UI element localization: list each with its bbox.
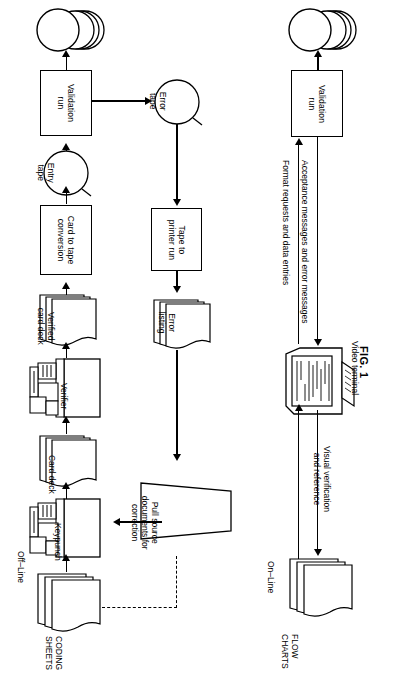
arrowhead-verifier-to-verified-deck [62, 342, 70, 349]
arrowhead-coding-sheets-to-keypunch [62, 554, 70, 561]
node-flow-charts [288, 553, 358, 625]
disk-stack-master-file-online [288, 6, 358, 54]
section-label-off-line: Off–Line [16, 551, 26, 583]
arrowhead-keypunch-to-card-deck [62, 482, 70, 489]
node-error-listing-label: Error listing [157, 312, 177, 334]
node-verified-card-deck-label: Verified card deck [35, 308, 55, 345]
node-card-to-tape-conversion-label: Card to tape conversion [56, 216, 76, 265]
arrowhead-validation-to-master-online [314, 50, 322, 57]
node-validation-run-offline-label: Validation run [56, 84, 76, 122]
node-coding-sheets [36, 568, 106, 638]
arrowhead-flow-charts-to-terminal [295, 404, 303, 411]
edge-pull-source-to-coding-sheets-vertical [176, 556, 177, 608]
edge-label-visual-verification: Visual verification and reference [312, 446, 332, 512]
edge-error-listing-to-pull-source [176, 350, 178, 456]
arrowhead-conversion-to-entry-tape [62, 186, 70, 193]
node-entry-tape-label: Entry tape [36, 163, 56, 183]
arrowhead-verified-deck-to-conversion [62, 282, 70, 289]
arrowhead-error-tape-to-printer-run [173, 199, 181, 206]
node-video-terminal [280, 336, 358, 416]
edge-label-format-requests: Format requests and data entries [281, 160, 291, 285]
node-card-to-tape-conversion: Card to tape conversion [40, 205, 92, 275]
node-error-tape-label: Error tape [147, 92, 167, 111]
node-coding-sheets-label: CODING SHEETS [44, 636, 64, 670]
node-keypunch [26, 497, 102, 559]
edge-validation-to-terminal-online [317, 137, 318, 341]
section-label-on-line: On–Line [266, 561, 276, 593]
node-tape-to-printer-run-label: Tape to printer run [166, 219, 186, 259]
edge-error-tape-to-printer-run [176, 124, 178, 201]
node-validation-run-offline: Validation run [40, 70, 92, 136]
patent-figure-sheet: Off–Line On–Line FIG. 1 Validation run E… [0, 0, 393, 677]
node-verifier-label: Verifier [59, 383, 69, 409]
edge-flow-charts-to-terminal [298, 410, 299, 560]
arrowhead-card-deck-to-verifier [62, 416, 70, 423]
disk-stack-master-file-offline [36, 6, 106, 54]
node-validation-run-online-label: Validation run [307, 84, 327, 122]
edge-validation-to-master-online [317, 56, 319, 70]
edge-pull-source-to-coding-sheets-horizontal [102, 607, 177, 608]
arrowhead-terminal-to-validation-online [295, 138, 303, 145]
arrowhead-validation-to-master-offline [62, 50, 70, 57]
edge-pull-source-to-keypunch [119, 521, 162, 523]
arrowhead-printer-run-to-error-listing [173, 286, 181, 293]
edge-conversion-to-entry-tape [66, 192, 68, 204]
node-validation-run-online: Validation run [291, 70, 343, 137]
node-video-terminal-label: Video terminal [350, 341, 360, 395]
edge-label-acceptance-messages: Acceptance messages and error messages [300, 160, 310, 323]
arrowhead-pull-source-to-keypunch [113, 518, 120, 526]
node-tape-to-printer-run: Tape to printer run [151, 208, 202, 271]
edge-validation-to-error-tape [92, 100, 145, 102]
node-pull-source-documents-label: Pull source documents for correction [130, 496, 161, 550]
node-pull-source-documents [158, 464, 214, 558]
node-card-deck-label: Card deck [46, 455, 56, 494]
edge-validation-to-master-offline [66, 56, 68, 70]
node-flow-charts-label: FLOW CHARTS [280, 634, 300, 669]
arrowhead-error-listing-to-pull-source [173, 454, 181, 461]
